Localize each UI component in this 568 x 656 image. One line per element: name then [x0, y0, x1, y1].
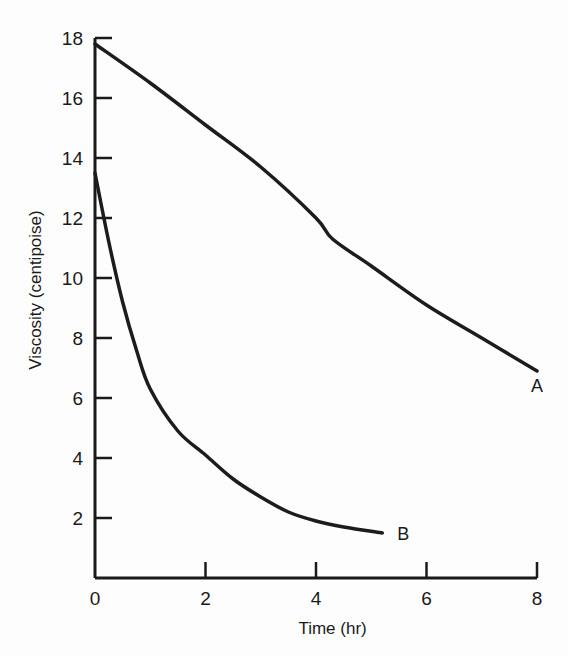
viscosity-chart: 24681012141618 02468 AB Time (hr) Viscos… — [0, 0, 568, 656]
x-axis-title: Time (hr) — [298, 619, 366, 638]
curves: AB — [95, 44, 543, 544]
y-tick-label: 12 — [62, 208, 83, 229]
x-tick-label: 8 — [532, 588, 543, 609]
x-tick-label: 6 — [421, 588, 432, 609]
x-tick-label: 0 — [90, 588, 101, 609]
series-b: B — [95, 173, 409, 544]
y-tick-label: 8 — [72, 328, 83, 349]
series-a: A — [95, 44, 543, 396]
series-label-b: B — [397, 524, 409, 544]
y-axis-title: Viscosity (centipoise) — [26, 210, 45, 369]
y-tick-label: 6 — [72, 388, 83, 409]
curve-a — [95, 44, 537, 371]
y-tick-label: 4 — [72, 448, 83, 469]
x-tick-label: 4 — [311, 588, 322, 609]
series-label-a: A — [531, 376, 543, 396]
axes — [95, 38, 537, 578]
y-ticks: 24681012141618 — [62, 28, 112, 529]
x-ticks: 02468 — [90, 562, 543, 609]
curve-b — [95, 173, 382, 533]
y-tick-label: 2 — [72, 508, 83, 529]
y-tick-label: 10 — [62, 268, 83, 289]
y-tick-label: 14 — [62, 148, 84, 169]
x-tick-label: 2 — [200, 588, 211, 609]
y-tick-label: 18 — [62, 28, 83, 49]
y-tick-label: 16 — [62, 88, 83, 109]
